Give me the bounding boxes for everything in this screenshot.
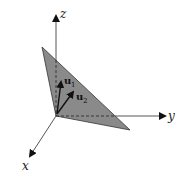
x-axis <box>30 116 56 156</box>
x-axis-label: x <box>22 159 29 173</box>
plane-diagram: z y x u 1 u 2 <box>0 0 183 179</box>
u2-subscript: 2 <box>83 97 87 105</box>
z-axis-label: z <box>59 7 67 21</box>
u1-subscript: 1 <box>71 81 75 89</box>
y-axis-label: y <box>167 109 175 123</box>
